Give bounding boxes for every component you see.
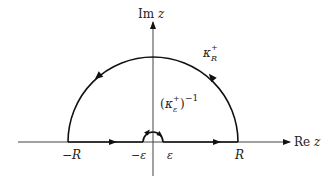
tick-neg-R: −R	[62, 148, 81, 162]
large-arc-label: κ	[202, 46, 211, 60]
tick-neg-eps: −ε	[131, 149, 146, 162]
arrow-right-segment-icon	[213, 139, 221, 145]
re-axis-label: Re z	[294, 135, 321, 149]
contour-diagram: Im z Re z κ + R ( κ + ε ) −1 −R −ε ε R	[0, 0, 329, 183]
small-arc-label-sub: ε	[173, 105, 177, 114]
small-arc-label-exp: −1	[185, 93, 198, 103]
arrow-left-segment-icon	[109, 139, 117, 145]
small-arc-label-open: (	[160, 97, 165, 111]
im-axis-label: Im z	[138, 7, 165, 21]
small-arc-label: κ	[164, 97, 173, 111]
small-arc-label-sup: +	[173, 94, 180, 103]
tick-eps: ε	[167, 149, 173, 162]
large-arc-label-sup: +	[211, 43, 218, 52]
large-arc-label-sub: R	[210, 54, 217, 63]
small-arc-label-close: )	[180, 97, 185, 111]
tick-R: R	[234, 148, 244, 162]
